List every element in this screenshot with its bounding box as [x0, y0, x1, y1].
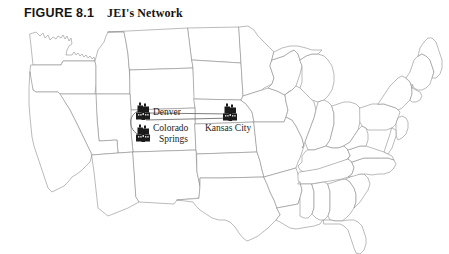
city-label-colorado-springs-line1: Colorado: [153, 123, 188, 134]
link-colorado-springs-kansas-city: [146, 118, 233, 120]
city-label-denver: Denver: [153, 107, 181, 118]
us-map: Denver Colorado Springs Kansas City: [0, 22, 449, 254]
city-label-colorado-springs-line2: Springs: [153, 134, 188, 145]
network-links: [0, 22, 449, 254]
figure-title: JEI's Network: [107, 6, 183, 21]
facility-icon-kansas-city: [222, 103, 239, 122]
city-label-colorado-springs: Colorado Springs: [153, 123, 188, 144]
city-label-kansas-city: Kansas City: [205, 123, 251, 134]
facility-icon-denver: [135, 102, 152, 121]
figure-number: FIGURE 8.1: [24, 6, 94, 20]
facility-icon-colorado-springs: [135, 124, 152, 143]
